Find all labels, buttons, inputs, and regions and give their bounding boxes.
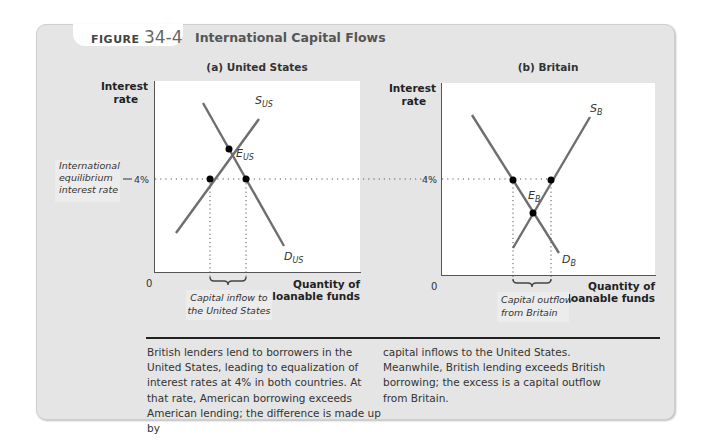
chart-us-flow-line2: the United States (188, 305, 271, 316)
side-note-line3: interest rate (59, 184, 118, 195)
chart-us-equilibrium-point (226, 146, 233, 153)
chart-us-plot-area (155, 81, 360, 272)
chart-us-demand-point (243, 176, 250, 183)
chart-britain-supply-point (548, 177, 555, 184)
chart-us-y-label-2: rate (114, 93, 138, 105)
chart-britain-origin: 0 (431, 281, 437, 292)
chart-us-title: (a) United States (206, 61, 307, 73)
chart-britain-x-label-1: Quantity of (588, 280, 655, 292)
chart-britain-flow-line2: from Britain (501, 307, 558, 318)
chart-britain-brace (513, 279, 551, 287)
chart-us-supply-point (207, 176, 214, 183)
chart-us-brace (210, 277, 246, 285)
side-note-line1: International (59, 160, 120, 171)
chart-britain-equilibrium-point (530, 210, 537, 217)
chart-us: (a) United States Interest rate 0 Quanti… (55, 61, 432, 320)
caption-column-1: British lenders lend to borrowers in the… (147, 345, 382, 436)
chart-britain-title: (b) Britain (518, 61, 579, 73)
caption-rule (146, 337, 660, 339)
chart-us-origin: 0 (146, 278, 152, 289)
chart-britain-y-label-2: rate (402, 95, 426, 107)
chart-britain: (b) Britain Interest rate 0 Quantity of … (389, 61, 656, 322)
chart-us-x-label-1: Quantity of (293, 278, 360, 290)
caption-column-2: capital inflows to the United States. Me… (383, 345, 613, 406)
chart-britain-y-label-1: Interest (389, 82, 436, 94)
chart-britain-demand-point (510, 177, 517, 184)
chart-us-rate-tick: 4% (134, 174, 149, 185)
chart-britain-rate-tick: 4% (422, 174, 437, 185)
chart-britain-flow-line1: Capital outflow (501, 294, 573, 305)
chart-us-y-label-1: Interest (101, 80, 148, 92)
chart-us-flow-line1: Capital inflow to (190, 292, 267, 303)
side-note-line2: equilibrium (59, 172, 113, 183)
chart-us-x-label-2: loanable funds (272, 290, 360, 302)
chart-britain-x-label-2: loanable funds (567, 292, 655, 304)
